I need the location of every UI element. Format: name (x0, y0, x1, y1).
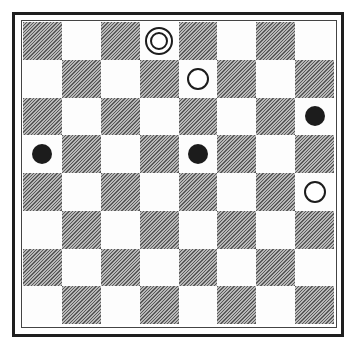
square-a5[interactable] (23, 135, 62, 173)
square-c8[interactable] (101, 22, 140, 60)
square-f4[interactable] (217, 173, 256, 211)
square-b5[interactable] (62, 135, 101, 173)
square-e7[interactable] (179, 60, 218, 98)
square-e3[interactable] (179, 211, 218, 249)
square-f2[interactable] (217, 249, 256, 287)
square-a2[interactable] (23, 249, 62, 287)
square-c6[interactable] (101, 98, 140, 136)
square-c1[interactable] (101, 286, 140, 324)
black-man-piece-icon[interactable] (305, 106, 325, 126)
square-b2[interactable] (62, 249, 101, 287)
square-h1[interactable] (295, 286, 334, 324)
black-man-piece-icon[interactable] (32, 144, 52, 164)
square-e8[interactable] (179, 22, 218, 60)
square-f3[interactable] (217, 211, 256, 249)
square-b6[interactable] (62, 98, 101, 136)
white-king-piece-icon[interactable] (145, 27, 173, 55)
square-d3[interactable] (140, 211, 179, 249)
square-g2[interactable] (256, 249, 295, 287)
square-b7[interactable] (62, 60, 101, 98)
square-c4[interactable] (101, 173, 140, 211)
square-c5[interactable] (101, 135, 140, 173)
square-d6[interactable] (140, 98, 179, 136)
square-h6[interactable] (295, 98, 334, 136)
square-g4[interactable] (256, 173, 295, 211)
square-f6[interactable] (217, 98, 256, 136)
white-man-piece-icon[interactable] (304, 181, 326, 203)
black-man-piece-icon[interactable] (188, 144, 208, 164)
square-g6[interactable] (256, 98, 295, 136)
square-e2[interactable] (179, 249, 218, 287)
square-h8[interactable] (295, 22, 334, 60)
square-h3[interactable] (295, 211, 334, 249)
square-f7[interactable] (217, 60, 256, 98)
square-g7[interactable] (256, 60, 295, 98)
square-h5[interactable] (295, 135, 334, 173)
checkers-board (23, 22, 334, 324)
square-g1[interactable] (256, 286, 295, 324)
square-a4[interactable] (23, 173, 62, 211)
square-b8[interactable] (62, 22, 101, 60)
square-a1[interactable] (23, 286, 62, 324)
square-d4[interactable] (140, 173, 179, 211)
white-man-piece-icon[interactable] (187, 68, 209, 90)
square-a8[interactable] (23, 22, 62, 60)
square-e6[interactable] (179, 98, 218, 136)
square-h4[interactable] (295, 173, 334, 211)
square-b1[interactable] (62, 286, 101, 324)
square-d8[interactable] (140, 22, 179, 60)
square-f5[interactable] (217, 135, 256, 173)
square-c7[interactable] (101, 60, 140, 98)
square-d2[interactable] (140, 249, 179, 287)
square-g3[interactable] (256, 211, 295, 249)
square-f1[interactable] (217, 286, 256, 324)
square-e5[interactable] (179, 135, 218, 173)
square-c2[interactable] (101, 249, 140, 287)
square-h7[interactable] (295, 60, 334, 98)
square-f8[interactable] (217, 22, 256, 60)
square-e4[interactable] (179, 173, 218, 211)
square-g5[interactable] (256, 135, 295, 173)
square-e1[interactable] (179, 286, 218, 324)
square-b4[interactable] (62, 173, 101, 211)
square-d1[interactable] (140, 286, 179, 324)
square-g8[interactable] (256, 22, 295, 60)
square-c3[interactable] (101, 211, 140, 249)
square-a3[interactable] (23, 211, 62, 249)
square-a7[interactable] (23, 60, 62, 98)
square-h2[interactable] (295, 249, 334, 287)
square-a6[interactable] (23, 98, 62, 136)
square-b3[interactable] (62, 211, 101, 249)
square-d5[interactable] (140, 135, 179, 173)
square-d7[interactable] (140, 60, 179, 98)
